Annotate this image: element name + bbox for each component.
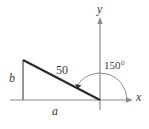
figure-canvas: [0, 0, 149, 129]
label-leg-b: b: [9, 72, 15, 84]
label-leg-a: a: [52, 105, 58, 117]
y-axis-arrowhead: [97, 17, 102, 24]
label-angle-measure: 150°: [104, 60, 125, 71]
y-axis: [97, 17, 102, 110]
x-axis: [10, 97, 133, 102]
angle-arc: [75, 73, 127, 100]
angle-arc-path: [77, 73, 127, 100]
geometry-figure: b a 50 150° x y: [0, 0, 149, 129]
label-hypotenuse-length: 50: [56, 64, 68, 76]
label-y-axis: y: [97, 3, 102, 15]
label-x-axis: x: [136, 91, 141, 103]
